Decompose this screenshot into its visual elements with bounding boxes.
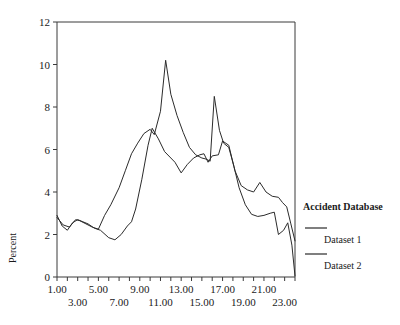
legend-title-text: Accident Database — [303, 201, 383, 212]
chart-figure: 024681012 1.005.009.0013.0017.0021.003.0… — [0, 0, 400, 325]
chart-legend: Accident DatabaseDataset 1Dataset 2 — [303, 201, 383, 271]
line-chart: 024681012 1.005.009.0013.0017.0021.003.0… — [0, 0, 400, 325]
y-axis-title-text: Percent — [7, 233, 18, 263]
data-series-group — [57, 60, 295, 276]
y-tick-label: 6 — [45, 144, 51, 156]
y-tick-label: 12 — [39, 16, 50, 28]
y-tick-label: 8 — [45, 101, 51, 113]
y-tick-label: 2 — [45, 229, 51, 241]
plot-frame — [57, 22, 295, 277]
plot-border — [57, 22, 295, 277]
y-tick-label: 0 — [45, 271, 51, 283]
y-tick-label: 10 — [39, 59, 51, 71]
series-line-1 — [57, 128, 295, 241]
x-tick-label: 5.00 — [89, 283, 109, 295]
series-line-2 — [57, 60, 295, 276]
y-axis-ticks: 024681012 — [39, 16, 57, 283]
x-axis-ticks: 1.005.009.0013.0017.0021.003.007.0011.00… — [47, 277, 297, 308]
x-tick-label: 19.00 — [231, 296, 256, 308]
x-tick-label: 11.00 — [148, 296, 173, 308]
legend-label-1: Dataset 1 — [324, 234, 362, 245]
legend-label-2: Dataset 2 — [324, 260, 362, 271]
x-tick-label: 13.00 — [169, 283, 194, 295]
x-tick-label: 15.00 — [189, 296, 214, 308]
x-tick-label: 21.00 — [252, 283, 277, 295]
x-tick-label: 17.00 — [210, 283, 235, 295]
x-tick-label: 3.00 — [68, 296, 88, 308]
y-axis-title: Percent — [7, 233, 18, 263]
x-tick-label: 9.00 — [130, 283, 150, 295]
x-tick-label: 23.00 — [272, 296, 297, 308]
y-tick-label: 4 — [45, 186, 51, 198]
x-tick-label: 7.00 — [109, 296, 129, 308]
x-tick-label: 1.00 — [47, 283, 67, 295]
